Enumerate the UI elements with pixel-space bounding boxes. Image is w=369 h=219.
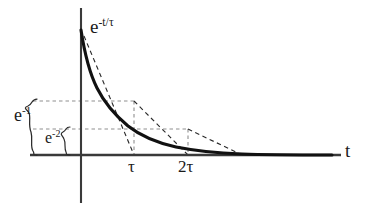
level-label-e1-base: e	[14, 105, 22, 125]
exponential-decay-figure: e-t/τ t τ 2τ e-1 e-2	[0, 0, 369, 219]
brace-e2	[61, 127, 70, 155]
x-tick-label-2tau: 2τ	[178, 158, 193, 175]
tangent-lines	[84, 36, 242, 155]
x-tick-label-tau: τ	[128, 158, 135, 175]
decay-curve	[81, 30, 332, 155]
plot-canvas	[0, 0, 369, 219]
curve-label-exponent: -t/τ	[98, 16, 113, 29]
level-label-e1-exponent: -1	[22, 104, 31, 116]
curve-label: e-t/τ	[90, 17, 114, 36]
level-label-e-inverse-2: e-2	[45, 130, 60, 146]
tangent-at-origin	[84, 36, 134, 155]
x-axis-label: t	[345, 141, 350, 160]
level-label-e2-exponent: -2	[52, 128, 60, 139]
level-label-e-inverse-1: e-1	[14, 106, 31, 124]
